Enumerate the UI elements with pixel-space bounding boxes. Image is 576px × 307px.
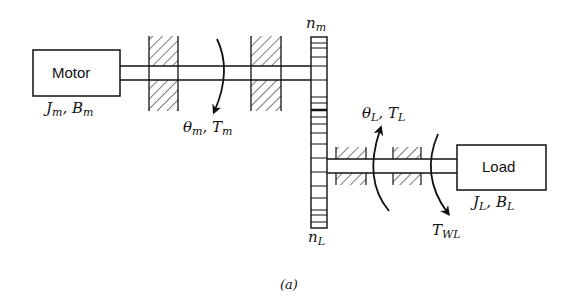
figure-caption: (a)	[280, 277, 298, 292]
gear-assembly	[311, 37, 327, 228]
diagram-canvas	[0, 0, 576, 307]
motor-bearing-2	[251, 36, 281, 111]
disturbance-torque-label: TWL	[432, 221, 461, 241]
load-bearing-2	[393, 147, 421, 185]
load-params-label: JL, BL	[473, 193, 514, 213]
load-torque-arrow-icon	[373, 130, 389, 211]
gear-bottom-label: nL	[308, 228, 325, 248]
motor-params-label: Jm, Bm	[46, 99, 93, 119]
motor-shaft-label: θm, Tm	[183, 118, 232, 138]
load-shaft-label: θL, TL	[362, 104, 405, 124]
motor-label: Motor	[52, 64, 90, 81]
load-label: Load	[482, 158, 515, 175]
load-bearing-1	[336, 147, 366, 185]
load-shaft	[327, 158, 457, 173]
gear-top-label: nm	[306, 14, 326, 34]
motor-rotation-arrow-icon	[215, 39, 224, 110]
motor-bearing-1	[149, 36, 178, 111]
